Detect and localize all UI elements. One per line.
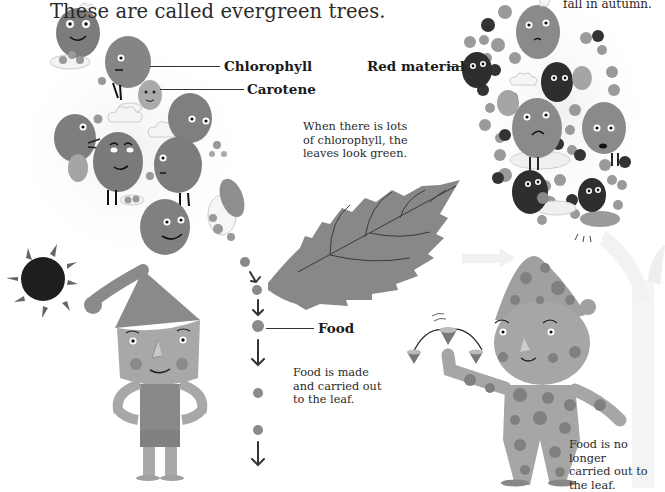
green-leaves-caption: When there is lots of chlorophyll, the l… [303, 120, 408, 161]
sun-icon [6, 244, 78, 318]
carotene-leader-line [160, 89, 244, 90]
transition-arrow-icon [462, 248, 515, 268]
red-material-leader-line [448, 66, 464, 67]
food-not-carried-caption: Food is no longer carried out to the lea… [569, 438, 665, 492]
boy-in-pointed-hat-icon [84, 270, 202, 481]
chlorophyll-label: Chlorophyll [224, 58, 312, 74]
carotene-label: Carotene [247, 81, 316, 97]
chlorophyll-leader-line [150, 66, 220, 67]
food-leader-line [266, 328, 314, 329]
green-leaf-icon [268, 180, 460, 310]
top-right-caption: fall in autumn. [563, 0, 652, 12]
food-carried-caption: Food is made and carried out to the leaf… [293, 366, 381, 407]
food-path-arrows-icon [240, 257, 264, 465]
page-heading: These are called evergreen trees. [50, 0, 386, 23]
food-label: Food [318, 320, 354, 336]
